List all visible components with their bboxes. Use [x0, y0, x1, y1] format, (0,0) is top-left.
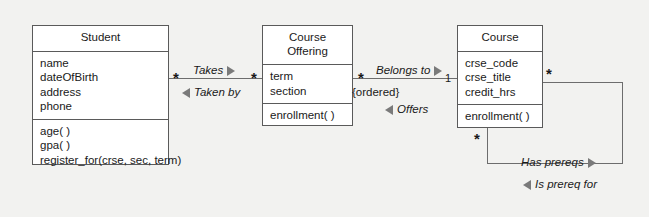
operations-compartment-course-offering: enrollment( )	[263, 103, 352, 128]
attributes-compartment-student: name dateOfBirth address phone	[33, 51, 168, 119]
multiplicity-course-left: 1	[445, 73, 451, 84]
attribute-credit-hrs: credit_hrs	[465, 85, 535, 100]
attributes-compartment-course: crse_code crse_title credit_hrs	[458, 51, 542, 105]
association-label-offers-text: Offers	[397, 103, 428, 116]
multiplicity-courseoffering-left: *	[251, 73, 257, 82]
operations-compartment-student: age( ) gpa( ) register_for(crse, sec, te…	[33, 119, 168, 173]
attribute-crse-title: crse_title	[465, 70, 535, 85]
prereq-loop-top-line	[542, 82, 623, 83]
attribute-dateofbirth: dateOfBirth	[40, 70, 161, 85]
class-name-course-offering-line1: Course	[267, 31, 348, 45]
triangle-right-icon	[588, 158, 596, 168]
association-label-belongs-to: Belongs to	[376, 64, 442, 77]
class-box-course-offering[interactable]: Course Offering term section enrollment(…	[262, 25, 353, 126]
multiplicity-course-prereq-bottom: *	[474, 134, 480, 143]
class-box-student[interactable]: Student name dateOfBirth address phone a…	[32, 25, 169, 165]
prereq-loop-left-line	[487, 128, 488, 164]
operation-gpa: gpa( )	[40, 138, 161, 153]
association-line-courseoffering-course	[352, 78, 458, 79]
operation-enrollment: enrollment( )	[270, 108, 345, 123]
class-name-course-offering: Course Offering	[263, 26, 352, 64]
attribute-section: section	[270, 84, 345, 99]
association-line-student-courseoffering	[168, 78, 263, 79]
operation-register-for: register_for(crse, sec, term)	[40, 153, 161, 168]
attributes-compartment-course-offering: term section	[263, 64, 352, 103]
triangle-left-icon	[385, 105, 393, 115]
triangle-left-icon	[523, 180, 531, 190]
operation-age: age( )	[40, 124, 161, 139]
operations-compartment-course: enrollment( )	[458, 104, 542, 129]
association-label-is-prereq-for-text: Is prereq for	[535, 178, 597, 191]
association-label-takes: Takes	[193, 64, 235, 77]
association-label-taken-by-text: Taken by	[194, 86, 240, 99]
association-label-taken-by: Taken by	[182, 86, 240, 99]
class-name-student: Student	[33, 26, 168, 51]
attribute-crse-code: crse_code	[465, 56, 535, 71]
association-label-takes-text: Takes	[193, 64, 223, 77]
association-label-is-prereq-for: Is prereq for	[523, 178, 597, 191]
prereq-loop-right-line	[622, 82, 623, 164]
multiplicity-course-prereq-right: *	[546, 69, 552, 78]
triangle-left-icon	[182, 88, 190, 98]
triangle-right-icon	[227, 66, 235, 76]
class-box-course[interactable]: Course crse_code crse_title credit_hrs e…	[457, 25, 543, 128]
attribute-phone: phone	[40, 99, 161, 114]
triangle-right-icon	[434, 66, 442, 76]
association-label-has-prereqs-text: Has prereqs	[521, 156, 584, 169]
multiplicity-courseoffering-right: *	[358, 73, 364, 82]
attribute-name: name	[40, 56, 161, 71]
constraint-ordered: {ordered}	[352, 86, 399, 99]
class-name-course-offering-line2: Offering	[267, 45, 348, 59]
attribute-term: term	[270, 69, 345, 84]
uml-class-diagram: Student name dateOfBirth address phone a…	[0, 0, 649, 217]
attribute-address: address	[40, 85, 161, 100]
association-label-offers: Offers	[385, 103, 428, 116]
class-name-course: Course	[458, 26, 542, 51]
multiplicity-student-side: *	[173, 73, 179, 82]
operation-enrollment-course: enrollment( )	[465, 109, 535, 124]
association-label-has-prereqs: Has prereqs	[521, 156, 596, 169]
association-label-belongs-to-text: Belongs to	[376, 64, 430, 77]
